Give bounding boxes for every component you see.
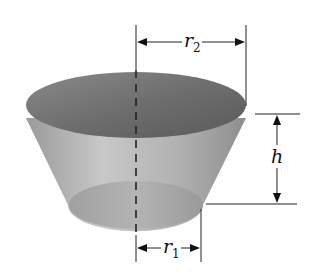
frustum-diagram: r2 h r1	[0, 0, 315, 273]
r2-arrow-left-icon	[137, 38, 147, 46]
h-arrow-down-icon	[273, 193, 281, 203]
r2-label: r2	[184, 29, 201, 55]
h-label: h	[271, 145, 283, 167]
r2-arrow-right-icon	[235, 38, 245, 46]
r1-arrow-left-icon	[137, 244, 147, 252]
h-arrow-up-icon	[273, 115, 281, 125]
r1-arrow-right-icon	[190, 244, 200, 252]
r1-label: r1	[163, 235, 180, 261]
